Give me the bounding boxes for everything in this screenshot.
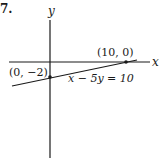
x-axis-label: x: [152, 55, 159, 69]
y-axis-label: y: [47, 4, 55, 18]
equation-label: x − 5y = 10: [68, 72, 134, 85]
problem-number: 7.: [0, 2, 13, 16]
point-label-x-intercept: (10, 0): [97, 46, 134, 59]
point-y-intercept: [48, 75, 52, 79]
point-x-intercept: [124, 60, 128, 64]
graph: 7. y x (10, 0) (0, −2) x − 5y = 10: [0, 0, 163, 166]
point-label-y-intercept: (0, −2): [9, 66, 48, 79]
